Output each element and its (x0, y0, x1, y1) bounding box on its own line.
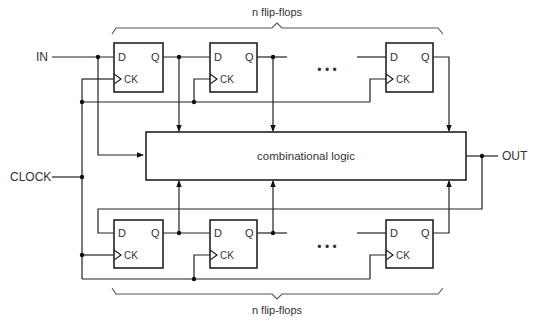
svg-text:D: D (214, 227, 222, 239)
bottom-flip-flop-2: D Q CK (210, 220, 257, 268)
svg-text:Q: Q (151, 51, 160, 63)
svg-text:Q: Q (245, 227, 254, 239)
svg-text:Q: Q (421, 227, 430, 239)
svg-text:Q: Q (245, 51, 254, 63)
out-wire (466, 154, 498, 158)
bottom-brace (112, 288, 443, 299)
circuit-svg: n flip-flops n flip-flops IN CLOCK OUT (0, 0, 533, 322)
svg-text:CK: CK (220, 74, 234, 85)
svg-text:D: D (214, 51, 222, 63)
out-label: OUT (502, 149, 528, 163)
combinational-logic-block: combinational logic (146, 132, 466, 180)
bottom-brace-label: n flip-flops (252, 304, 303, 316)
svg-text:Q: Q (151, 227, 160, 239)
svg-text:D: D (390, 227, 398, 239)
top-flip-flop-n: D Q CK (386, 43, 433, 92)
bottom-ellipsis: • • • (317, 240, 336, 254)
svg-text:Q: Q (421, 51, 430, 63)
top-brace-label: n flip-flops (252, 6, 303, 18)
clock-label: CLOCK (10, 170, 51, 184)
in-label: IN (36, 50, 48, 64)
svg-text:CK: CK (220, 250, 234, 261)
svg-text:D: D (390, 51, 398, 63)
top-brace (112, 23, 443, 34)
svg-text:CK: CK (124, 74, 138, 85)
bottom-flip-flop-1: D Q CK (114, 220, 163, 268)
svg-text:CK: CK (124, 250, 138, 261)
svg-text:CK: CK (396, 250, 410, 261)
bottom-flip-flop-n: D Q CK (386, 220, 433, 268)
top-flip-flop-2: D Q CK (210, 43, 257, 92)
combinational-logic-label: combinational logic (257, 150, 355, 162)
top-ellipsis: • • • (317, 63, 336, 77)
svg-text:D: D (118, 227, 126, 239)
top-flip-flop-1: D Q CK (114, 43, 163, 92)
circuit-diagram: n flip-flops n flip-flops IN CLOCK OUT (0, 0, 533, 322)
svg-text:D: D (118, 51, 126, 63)
svg-text:CK: CK (396, 74, 410, 85)
